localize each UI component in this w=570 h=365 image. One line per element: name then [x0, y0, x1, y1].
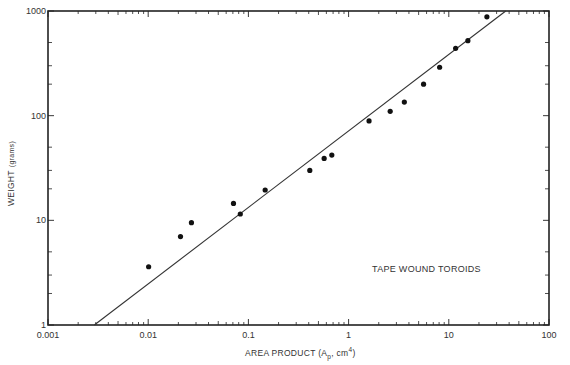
plot-frame [48, 11, 549, 325]
fit-line [94, 11, 505, 325]
chart: 0.0010.010.1110100 1101001000 TAPE WOUND… [0, 0, 570, 365]
data-point [453, 46, 458, 51]
y-tick-labels: 1101001000 [26, 6, 46, 330]
x-tick-labels: 0.0010.010.1110100 [37, 330, 557, 340]
axis-ticks [48, 11, 549, 325]
x-tick-label: 0.01 [139, 330, 157, 340]
y-tick-label: 100 [31, 111, 46, 121]
data-points [146, 14, 489, 269]
data-point [146, 264, 151, 269]
x-axis-title: AREA PRODUCT (Ap, cm4) [245, 346, 356, 361]
data-point [178, 234, 183, 239]
data-point [238, 211, 243, 216]
data-point [263, 187, 268, 192]
data-point [388, 109, 393, 114]
y-tick-label: 1 [41, 320, 46, 330]
y-tick-label: 10 [36, 215, 46, 225]
data-point [329, 152, 334, 157]
x-tick-label: 10 [444, 330, 454, 340]
data-point [465, 38, 470, 43]
data-point [402, 99, 407, 104]
data-point [484, 14, 489, 19]
data-point [307, 168, 312, 173]
y-tick-label: 1000 [26, 6, 46, 16]
x-tick-label: 100 [541, 330, 556, 340]
data-point [189, 220, 194, 225]
annotation: TAPE WOUND TOROIDS [372, 264, 481, 274]
x-tick-label: 0.001 [37, 330, 60, 340]
data-point [366, 118, 371, 123]
x-tick-label: 0.1 [242, 330, 255, 340]
x-tick-label: 1 [346, 330, 351, 340]
data-point [437, 65, 442, 70]
data-point [421, 82, 426, 87]
data-point [322, 156, 327, 161]
data-point [231, 201, 236, 206]
y-axis-title: WEIGHT(grams) [6, 141, 16, 206]
